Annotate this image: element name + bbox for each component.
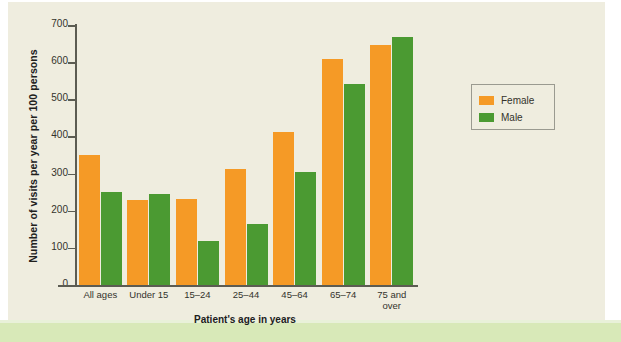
bar-female [79, 155, 100, 285]
chart-figure: Number of visits per year per 100 person… [0, 0, 621, 342]
bar-group [322, 25, 365, 285]
bar-female [176, 199, 197, 285]
y-axis-tick-label: 500 [28, 92, 68, 103]
legend-swatch-male [479, 113, 494, 122]
y-axis-tick [68, 62, 75, 64]
legend-swatch-female [479, 96, 494, 105]
bar-female [322, 59, 343, 285]
bar-male [101, 192, 122, 285]
y-axis-tick [68, 211, 75, 213]
bar-male [344, 84, 365, 285]
bar-female [127, 200, 148, 285]
bar-group [127, 25, 170, 285]
y-axis-tick [68, 25, 75, 27]
bar-female [273, 132, 294, 285]
y-axis-tick [68, 136, 75, 138]
bar-group [273, 25, 316, 285]
bar-group [370, 25, 413, 285]
x-axis-line [58, 285, 418, 287]
bar-female [225, 169, 246, 285]
legend-item-female: Female [479, 92, 554, 109]
y-axis-ticks: 0100200300400500600700 [20, 0, 68, 342]
bar-female [370, 45, 391, 285]
bar-male [295, 172, 316, 285]
chart-legend: Female Male [471, 84, 555, 130]
bottom-green-band [0, 323, 621, 342]
y-axis-tick-label: 0 [28, 278, 68, 289]
y-axis-tick [68, 248, 75, 250]
y-axis-tick-label: 300 [28, 167, 68, 178]
y-axis-tick-label: 100 [28, 241, 68, 252]
legend-label-male: Male [501, 112, 523, 123]
y-axis-tick [68, 174, 75, 176]
x-axis-title: Patient's age in years [75, 314, 415, 325]
y-axis-tick-label: 700 [28, 18, 68, 29]
bar-group [225, 25, 268, 285]
y-axis-tick-label: 400 [28, 129, 68, 140]
legend-label-female: Female [501, 95, 534, 106]
bar-group [79, 25, 122, 285]
y-axis-tick-label: 600 [28, 55, 68, 66]
y-axis-tick [68, 99, 75, 101]
bar-male [247, 224, 268, 285]
plot-area: All agesUnder 1515–2425–4445–6465–7475 a… [75, 25, 415, 285]
legend-item-male: Male [479, 109, 554, 126]
bar-male [149, 194, 170, 285]
y-axis-tick-label: 200 [28, 204, 68, 215]
bar-group [176, 25, 219, 285]
bar-male [198, 241, 219, 285]
x-axis-category-label: 75 andover [355, 289, 429, 311]
right-margin [605, 0, 621, 323]
bar-male [392, 37, 413, 285]
